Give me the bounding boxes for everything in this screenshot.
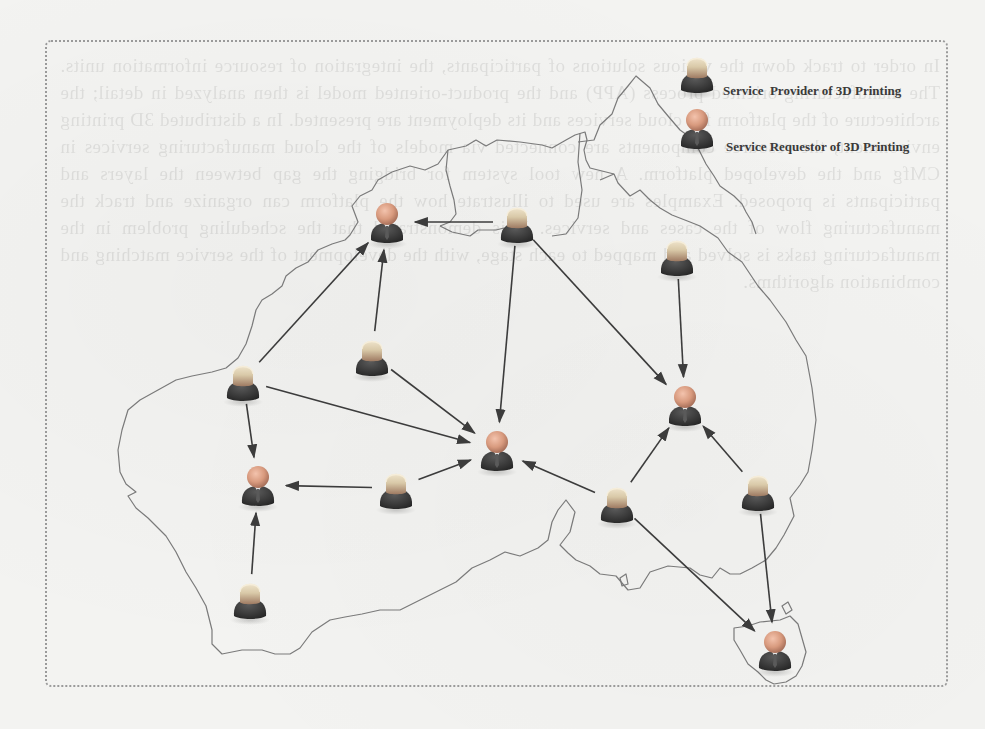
edge-P5-to-R4 xyxy=(286,486,372,488)
legend-provider-icon xyxy=(677,58,717,99)
service-provider-node-P2 xyxy=(657,241,697,282)
edge-P4-to-R4 xyxy=(246,404,254,458)
legend-provider-label: Service Provider of 3D Printing xyxy=(723,83,901,99)
australia-map-outline xyxy=(118,76,816,684)
edge-P8-to-R4 xyxy=(252,513,256,574)
3d-printing-service-network-diagram xyxy=(0,0,985,729)
edge-P6-to-R2 xyxy=(523,461,595,492)
edge-P2-to-R3 xyxy=(678,279,683,377)
edge-P1-to-R3 xyxy=(533,240,666,385)
edge-P4-to-R2 xyxy=(266,386,470,442)
service-nodes xyxy=(223,203,795,677)
edge-P7-to-R3 xyxy=(703,426,742,472)
legend-requestor-label: Service Requestor of 3D Printing xyxy=(726,139,909,155)
edge-P4-to-R1 xyxy=(259,243,368,363)
service-provider-node-P7 xyxy=(738,476,778,517)
service-provider-node-P8 xyxy=(230,584,270,625)
edge-P3-to-R1 xyxy=(375,250,384,331)
service-provider-node-P5 xyxy=(376,474,416,515)
service-provider-node-P4 xyxy=(223,366,263,407)
service-requestor-node-R3 xyxy=(665,386,705,432)
legend xyxy=(677,58,717,155)
service-provider-node-P6 xyxy=(597,488,637,529)
edge-P1-to-R2 xyxy=(499,246,515,422)
edge-P6-to-R3 xyxy=(631,428,669,482)
service-requestor-node-R5 xyxy=(755,631,795,677)
service-provider-node-P3 xyxy=(352,341,392,382)
edge-P6-to-R5 xyxy=(635,518,755,631)
service-requestor-node-R1 xyxy=(367,203,407,249)
service-requestor-node-R2 xyxy=(477,431,517,477)
edge-P5-to-R2 xyxy=(419,460,471,480)
edge-P7-to-R5 xyxy=(761,514,773,622)
service-requestor-node-R4 xyxy=(238,466,278,512)
